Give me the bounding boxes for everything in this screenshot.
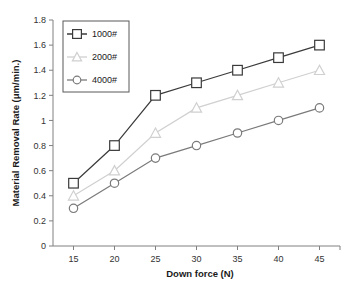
chart-legend: 1000#2000#4000# — [63, 21, 129, 92]
y-tick-label: 0.8 — [33, 141, 46, 151]
y-tick-label: 0.4 — [33, 191, 46, 201]
x-tick-label: 40 — [273, 254, 283, 264]
chart-figure: 00.20.40.60.811.21.41.61.8 1520253035404… — [0, 0, 355, 292]
data-point-marker — [151, 91, 161, 101]
material-removal-rate-line-chart: 00.20.40.60.811.21.41.61.8 1520253035404… — [0, 0, 355, 292]
x-tick-label: 45 — [314, 254, 324, 264]
data-point-marker — [274, 53, 284, 63]
data-point-marker — [73, 76, 81, 84]
legend-label: 1000# — [92, 29, 117, 39]
x-tick-label: 25 — [150, 254, 160, 264]
data-point-marker — [315, 104, 323, 112]
data-point-marker — [110, 179, 118, 187]
y-tick-label: 1 — [41, 116, 46, 126]
x-tick-label: 15 — [68, 254, 78, 264]
data-point-marker — [233, 129, 241, 137]
y-tick-label: 1.8 — [33, 15, 46, 25]
data-point-marker — [274, 116, 282, 124]
y-tick-label: 1.6 — [33, 40, 46, 50]
x-tick-label: 35 — [232, 254, 242, 264]
data-point-marker — [192, 141, 200, 149]
data-point-marker — [233, 65, 243, 75]
data-point-marker — [315, 40, 325, 50]
y-tick-label: 1.4 — [33, 65, 46, 75]
data-point-marker — [192, 78, 202, 88]
legend-label: 4000# — [92, 75, 117, 85]
x-axis-title: Down force (N) — [166, 268, 234, 279]
y-tick-label: 0.2 — [33, 216, 46, 226]
y-tick-label: 1.2 — [33, 91, 46, 101]
legend-item-1000[interactable]: 1000# — [67, 29, 117, 39]
x-tick-label: 30 — [191, 254, 201, 264]
data-point-marker — [69, 204, 77, 212]
data-point-marker — [110, 141, 120, 151]
y-tick-label: 0 — [41, 241, 46, 251]
data-point-marker — [69, 178, 79, 188]
data-point-marker — [73, 30, 82, 39]
x-tick-label: 20 — [109, 254, 119, 264]
legend-label: 2000# — [92, 52, 117, 62]
data-point-marker — [151, 154, 159, 162]
y-axis-title: Material Removal Rate (μm/min.) — [10, 60, 21, 207]
y-tick-label: 0.6 — [33, 166, 46, 176]
